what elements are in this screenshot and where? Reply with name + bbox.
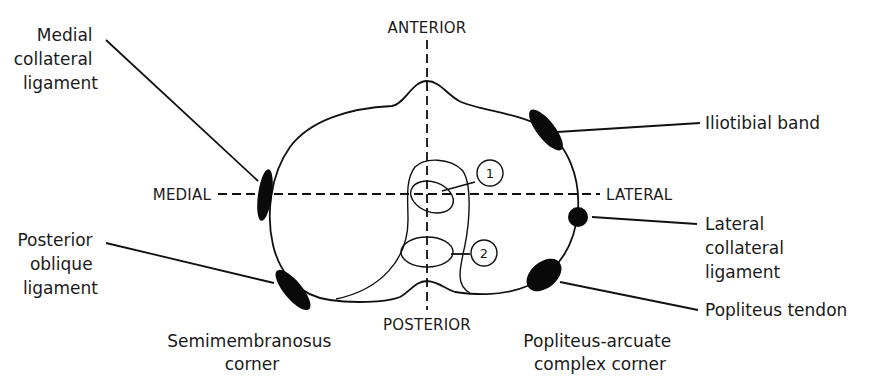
lateral-collateral-ligament-shape [568,207,588,227]
popliteus-tendon-label: Popliteus tendon [705,300,847,320]
anterior-label: ANTERIOR [388,19,467,37]
semimembranosus-corner-label: Semimembranosus corner [167,331,336,374]
marker-1-leader [442,182,475,191]
iliotibial-band-label: Iliotibial band [705,113,820,133]
medial-collateral-label: Medial collateral ligament [14,25,99,93]
lateral-collateral-label: Lateral collateral ligament [705,214,789,282]
medial-collateral-leader [106,40,258,181]
iliotibial-band-shape [524,105,569,155]
popliteus-tendon-leader [560,282,698,310]
medial-label: MEDIAL [153,186,212,204]
marker-2-label: 2 [480,246,488,261]
knee-diagram: ANTERIOR POSTERIOR MEDIAL LATERAL 1 2 Me… [0,0,893,383]
acl-ellipse [406,175,458,218]
intercondylar-loop [336,160,470,299]
iliotibial-leader [557,123,700,132]
lateral-label: LATERAL [606,186,673,204]
popliteus-arcuate-corner-label: Popliteus-arcuate complex corner [523,331,676,374]
posterior-label: POSTERIOR [383,316,471,334]
medial-collateral-ligament-shape [254,168,275,221]
posterior-oblique-label: Posterior oblique ligament [17,230,98,298]
posterior-oblique-leader [106,243,274,283]
posterior-oblique-ligament-shape [270,265,316,315]
marker-1-label: 1 [486,166,494,181]
lateral-collateral-leader [592,217,697,224]
